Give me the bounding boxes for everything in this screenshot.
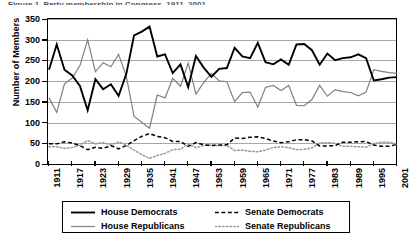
- x-tick-label-1983: 1983: [330, 168, 340, 188]
- x-tick-mark-1935: [141, 161, 142, 166]
- x-tick-mark-1965: [257, 161, 258, 166]
- x-tick-label-1917: 1917: [75, 168, 85, 188]
- y-tick-label-250: 250: [25, 56, 40, 65]
- legend-label-senate-republicans: Senate Republicans: [245, 222, 331, 231]
- legend-swatch-house-republicans: [71, 222, 95, 231]
- legend-label-house-democrats: House Democrats: [101, 208, 178, 217]
- legend-item-senate-republicans[interactable]: Senate Republicans: [215, 220, 331, 233]
- x-tick-label-1977: 1977: [307, 168, 317, 188]
- x-tick-label-1935: 1935: [145, 168, 155, 188]
- y-tick-label-100: 100: [25, 118, 40, 127]
- x-tick-label-1971: 1971: [284, 168, 294, 188]
- x-tick-label-1965: 1965: [261, 168, 271, 188]
- x-tick-label-1941: 1941: [168, 168, 178, 188]
- x-tick-mark-2001: [396, 161, 397, 166]
- y-tick-label-50: 50: [30, 139, 40, 148]
- y-tick-label-150: 150: [25, 97, 40, 106]
- y-tick-label-350: 350: [25, 15, 40, 24]
- legend-item-house-democrats[interactable]: House Democrats: [71, 206, 178, 219]
- y-axis-ticks: 050100150200250300350: [0, 0, 47, 183]
- plot-area: [47, 18, 397, 165]
- x-tick-mark-1929: [118, 161, 119, 166]
- x-tick-mark-1989: [350, 161, 351, 166]
- x-axis-ticks: 1911191719231929193519411947195319591965…: [47, 166, 397, 206]
- x-tick-mark-1995: [373, 161, 374, 166]
- legend-item-house-republicans[interactable]: House Republicans: [71, 220, 185, 233]
- x-tick-label-1911: 1911: [52, 168, 62, 188]
- x-tick-mark-1947: [187, 161, 188, 166]
- x-tick-mark-1953: [210, 161, 211, 166]
- legend-swatch-senate-democrats: [215, 208, 239, 217]
- x-tick-label-1959: 1959: [238, 168, 248, 188]
- x-tick-label-1989: 1989: [354, 168, 364, 188]
- legend-label-house-republicans: House Republicans: [101, 222, 185, 231]
- x-tick-label-1995: 1995: [377, 168, 387, 188]
- legend-label-senate-democrats: Senate Democrats: [245, 208, 324, 217]
- y-tick-label-0: 0: [35, 160, 40, 169]
- x-tick-label-1929: 1929: [122, 168, 132, 188]
- series-line-house-republicans: [49, 40, 397, 128]
- x-tick-mark-1977: [303, 161, 304, 166]
- chart-legend: House DemocratsHouse RepublicansSenate D…: [62, 201, 350, 233]
- series-line-senate-democrats: [49, 134, 397, 150]
- series-container: [48, 19, 398, 166]
- x-tick-label-1953: 1953: [214, 168, 224, 188]
- x-tick-label-1923: 1923: [98, 168, 108, 188]
- legend-item-senate-democrats[interactable]: Senate Democrats: [215, 206, 324, 219]
- legend-swatch-house-democrats: [71, 208, 95, 217]
- x-tick-mark-1923: [94, 161, 95, 166]
- x-tick-mark-1911: [48, 161, 49, 166]
- chart-figure: Figure 1. Party membership in Congress, …: [0, 0, 412, 239]
- x-tick-mark-1917: [71, 161, 72, 166]
- x-tick-label-1947: 1947: [191, 168, 201, 188]
- y-tick-label-200: 200: [25, 77, 40, 86]
- y-tick-label-300: 300: [25, 35, 40, 44]
- x-tick-mark-1959: [234, 161, 235, 166]
- x-tick-mark-1983: [326, 161, 327, 166]
- legend-swatch-senate-republicans: [215, 222, 239, 231]
- x-tick-mark-1971: [280, 161, 281, 166]
- x-tick-mark-1941: [164, 161, 165, 166]
- series-line-senate-republicans: [49, 141, 397, 159]
- x-tick-label-2001: 2001: [400, 168, 410, 188]
- series-line-house-democrats: [49, 27, 397, 111]
- figure-caption-cutoff: Figure 1. Party membership in Congress, …: [8, 0, 268, 5]
